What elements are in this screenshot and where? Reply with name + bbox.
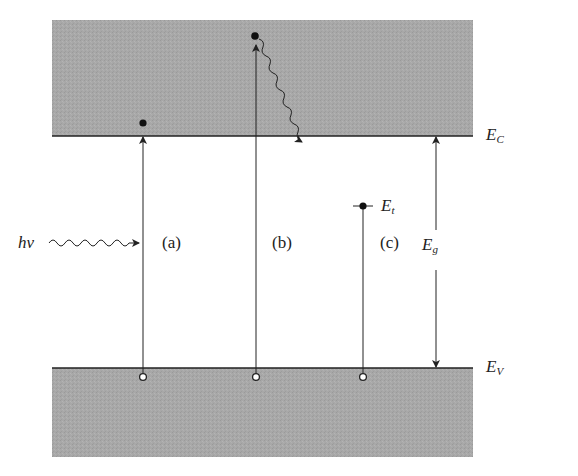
trapped-electron-icon: [359, 202, 366, 209]
label-sub: g: [432, 243, 438, 255]
electron-icon: [251, 32, 259, 40]
label-main: E: [422, 235, 432, 254]
electron-icon: [139, 119, 146, 126]
transition-a-label: (a): [162, 234, 181, 251]
conduction-band: [52, 20, 473, 136]
label-sub: V: [496, 365, 503, 377]
transition-b-label: (b): [272, 234, 292, 251]
hole-icon: [360, 374, 367, 381]
label-main: E: [486, 357, 496, 376]
conduction-band-label: EC: [486, 126, 504, 145]
label-sub: C: [496, 133, 503, 145]
valence-band: [52, 368, 473, 457]
transition-c-label: (c): [380, 234, 399, 251]
hole-icon: [253, 374, 260, 381]
hole-icon: [140, 374, 147, 381]
trap-level-label: Et: [381, 197, 394, 216]
valence-band-label: EV: [486, 358, 503, 377]
transition-a: [139, 119, 146, 380]
transition-c: [353, 202, 373, 380]
photon-label: hν: [18, 234, 34, 251]
band-gap-label: Eg: [422, 236, 438, 255]
label-main: E: [381, 196, 391, 215]
label-main: E: [486, 125, 496, 144]
photon-wavy-arrow: [49, 240, 139, 246]
label-sub: t: [391, 204, 394, 216]
